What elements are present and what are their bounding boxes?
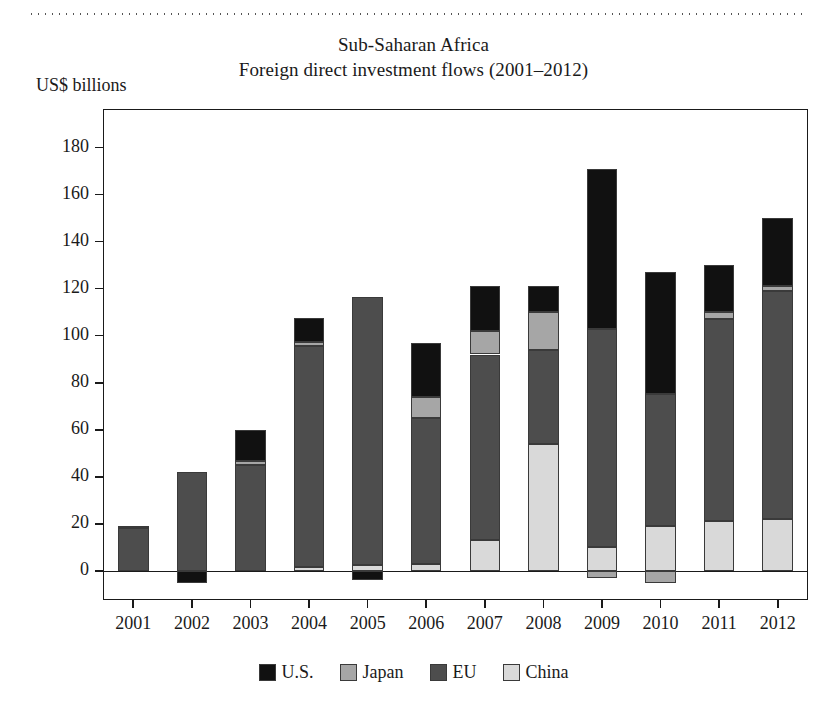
bar-segment-china[interactable] bbox=[528, 444, 558, 571]
bar-stack[interactable] bbox=[587, 110, 617, 599]
bar-stack[interactable] bbox=[235, 110, 265, 599]
bar-stack[interactable] bbox=[352, 110, 382, 599]
x-tick-mark bbox=[543, 599, 545, 608]
x-tick-label: 2007 bbox=[467, 613, 503, 634]
x-tick-label: 2001 bbox=[115, 613, 151, 634]
y-tick-mark bbox=[95, 570, 104, 572]
bar-stack[interactable] bbox=[294, 110, 324, 599]
legend-item-us[interactable]: U.S. bbox=[259, 662, 314, 683]
y-tick-label: 180 bbox=[62, 136, 89, 157]
legend-item-japan[interactable]: Japan bbox=[340, 662, 404, 683]
bar-segment-china[interactable] bbox=[645, 526, 675, 571]
plot-area: 020406080100120140160180 200120022003200… bbox=[103, 109, 808, 600]
bar-segment-us[interactable] bbox=[587, 169, 617, 329]
bar-segment-japan[interactable] bbox=[235, 461, 265, 465]
bar-segment-negative-us[interactable] bbox=[352, 571, 382, 580]
figure-fdi-sub-saharan-africa: Sub-Saharan Africa Foreign direct invest… bbox=[0, 0, 827, 721]
bar-stack[interactable] bbox=[645, 110, 675, 599]
x-tick-mark bbox=[718, 599, 720, 608]
bar-segment-negative-japan[interactable] bbox=[587, 571, 617, 578]
bar-segment-china[interactable] bbox=[762, 519, 792, 571]
y-tick-mark bbox=[95, 382, 104, 384]
legend-label: Japan bbox=[363, 662, 404, 683]
bar-stack[interactable] bbox=[470, 110, 500, 599]
y-axis-label: US$ billions bbox=[36, 75, 127, 96]
y-tick-label: 20 bbox=[71, 512, 89, 533]
bar-segment-china[interactable] bbox=[470, 540, 500, 571]
bar-stack[interactable] bbox=[704, 110, 734, 599]
x-tick-label: 2004 bbox=[291, 613, 327, 634]
bar-segment-eu[interactable] bbox=[470, 355, 500, 541]
bar-segment-china[interactable] bbox=[704, 521, 734, 570]
bar-segment-eu[interactable] bbox=[352, 297, 382, 565]
bar-segment-japan[interactable] bbox=[470, 331, 500, 355]
y-tick-label: 120 bbox=[62, 277, 89, 298]
bar-segment-us[interactable] bbox=[762, 218, 792, 286]
bar-segment-us[interactable] bbox=[235, 430, 265, 462]
bar-stack[interactable] bbox=[528, 110, 558, 599]
bar-segment-eu[interactable] bbox=[118, 528, 148, 570]
bar-segment-us[interactable] bbox=[645, 272, 675, 394]
x-tick-mark bbox=[367, 599, 369, 608]
legend-swatch bbox=[340, 664, 357, 681]
legend-label: China bbox=[526, 662, 569, 683]
y-tick-mark bbox=[95, 476, 104, 478]
plot-inner: 020406080100120140160180 200120022003200… bbox=[104, 110, 807, 599]
bar-segment-us[interactable] bbox=[294, 318, 324, 342]
bar-segment-us[interactable] bbox=[470, 286, 500, 331]
y-tick-label: 160 bbox=[62, 183, 89, 204]
legend-item-eu[interactable]: EU bbox=[430, 662, 477, 683]
bar-segment-negative-japan[interactable] bbox=[645, 571, 675, 583]
bar-segment-china[interactable] bbox=[587, 547, 617, 571]
bar-stack[interactable] bbox=[118, 110, 148, 599]
bar-segment-eu[interactable] bbox=[645, 394, 675, 526]
y-tick-label: 0 bbox=[80, 559, 89, 580]
y-tick-mark bbox=[95, 288, 104, 290]
y-tick-mark bbox=[95, 429, 104, 431]
bar-segment-us[interactable] bbox=[704, 265, 734, 312]
y-tick-mark bbox=[95, 194, 104, 196]
x-tick-label: 2006 bbox=[408, 613, 444, 634]
bar-segment-negative-us[interactable] bbox=[177, 571, 207, 583]
bar-segment-eu[interactable] bbox=[294, 346, 324, 567]
x-tick-label: 2005 bbox=[350, 613, 386, 634]
bar-segment-china[interactable] bbox=[294, 567, 324, 571]
bar-segment-eu[interactable] bbox=[762, 291, 792, 519]
bar-segment-japan[interactable] bbox=[411, 397, 441, 418]
y-tick-mark bbox=[95, 523, 104, 525]
bar-segment-japan[interactable] bbox=[704, 312, 734, 319]
x-tick-mark bbox=[250, 599, 252, 608]
x-tick-label: 2011 bbox=[701, 613, 736, 634]
x-tick-mark bbox=[484, 599, 486, 608]
bar-segment-eu[interactable] bbox=[587, 329, 617, 548]
legend-item-china[interactable]: China bbox=[503, 662, 569, 683]
bar-stack[interactable] bbox=[177, 110, 207, 599]
bar-segment-eu[interactable] bbox=[411, 418, 441, 564]
y-tick-label: 80 bbox=[71, 371, 89, 392]
bar-segment-eu[interactable] bbox=[704, 319, 734, 521]
y-tick-mark bbox=[95, 241, 104, 243]
y-tick-mark bbox=[95, 147, 104, 149]
y-tick-label: 60 bbox=[71, 418, 89, 439]
bar-segment-japan[interactable] bbox=[294, 342, 324, 347]
bar-stack[interactable] bbox=[762, 110, 792, 599]
bar-segment-japan[interactable] bbox=[528, 312, 558, 350]
x-tick-mark bbox=[132, 599, 134, 608]
bar-segment-eu[interactable] bbox=[235, 465, 265, 571]
x-tick-label: 2009 bbox=[584, 613, 620, 634]
bar-segment-japan[interactable] bbox=[118, 526, 148, 528]
bar-segment-eu[interactable] bbox=[528, 350, 558, 444]
x-tick-mark bbox=[601, 599, 603, 608]
bar-segment-us[interactable] bbox=[528, 286, 558, 312]
bar-segment-eu[interactable] bbox=[177, 472, 207, 571]
bar-segment-us[interactable] bbox=[411, 343, 441, 397]
bar-segment-japan[interactable] bbox=[762, 286, 792, 291]
x-tick-label: 2010 bbox=[643, 613, 679, 634]
legend-swatch bbox=[430, 664, 447, 681]
bar-segment-china[interactable] bbox=[411, 564, 441, 571]
x-tick-label: 2008 bbox=[525, 613, 561, 634]
x-tick-label: 2012 bbox=[760, 613, 796, 634]
x-tick-mark bbox=[425, 599, 427, 608]
bar-stack[interactable] bbox=[411, 110, 441, 599]
x-tick-label: 2003 bbox=[232, 613, 268, 634]
